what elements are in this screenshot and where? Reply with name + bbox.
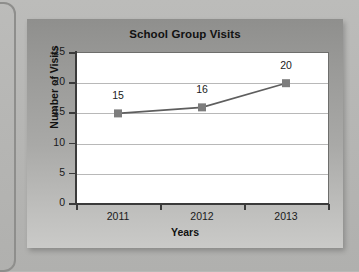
y-tick-mark-5 (69, 173, 76, 175)
y-tick-label-20: 20 (43, 75, 65, 87)
x-axis-title: Years (27, 226, 343, 238)
data-label-2011: 15 (101, 89, 135, 101)
data-marker-2011 (114, 109, 122, 117)
x-axis-line (75, 203, 329, 205)
x-tick-label-2013: 2013 (256, 210, 316, 222)
data-label-2013: 20 (269, 59, 303, 71)
plot-area (76, 52, 329, 204)
x-tick-mark-1 (160, 204, 162, 210)
x-tick-label-2012: 2012 (172, 210, 232, 222)
y-tick-mark-20 (69, 82, 76, 84)
x-tick-mark-2 (244, 204, 246, 210)
y-tick-label-25: 25 (43, 45, 65, 57)
y-axis-line (75, 51, 77, 204)
data-label-2012: 16 (185, 83, 219, 95)
y-tick-label-10: 10 (43, 136, 65, 148)
x-tick-mark-0 (76, 204, 78, 210)
x-tick-label-2011: 2011 (88, 210, 148, 222)
page-border-frame (0, 2, 16, 272)
y-tick-label-15: 15 (43, 105, 65, 117)
data-marker-2013 (282, 79, 290, 87)
y-tick-mark-10 (69, 143, 76, 145)
y-tick-mark-0 (69, 203, 76, 205)
y-tick-label-0: 0 (43, 196, 65, 208)
data-marker-2012 (198, 103, 206, 111)
y-tick-mark-25 (69, 52, 76, 54)
chart-panel: School Group Visits Number of Visits Yea… (27, 19, 343, 248)
x-tick-mark-3 (328, 204, 330, 210)
chart-title: School Group Visits (27, 28, 343, 40)
y-tick-label-5: 5 (43, 166, 65, 178)
y-tick-mark-15 (69, 112, 76, 114)
series-line-school-group-visits (76, 53, 328, 204)
